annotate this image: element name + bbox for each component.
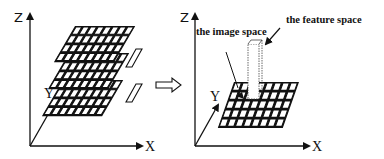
image-space-label: the image space	[196, 26, 267, 37]
transition-arrow-icon	[156, 78, 181, 92]
image-layer-stack	[42, 26, 142, 116]
right-z-label: Z	[180, 10, 189, 25]
left-z-label: Z	[14, 10, 23, 25]
feature-space-pointer	[266, 28, 280, 44]
right-x-label: X	[312, 139, 322, 154]
right-y-label: Y	[210, 89, 220, 104]
diagram-canvas: Z Y X Z Y X the feature space the image …	[0, 0, 384, 159]
right-y-axis	[195, 105, 218, 146]
left-x-label: X	[145, 139, 155, 154]
image-space-pointer	[226, 52, 238, 88]
feature-space-label: the feature space	[286, 14, 362, 25]
